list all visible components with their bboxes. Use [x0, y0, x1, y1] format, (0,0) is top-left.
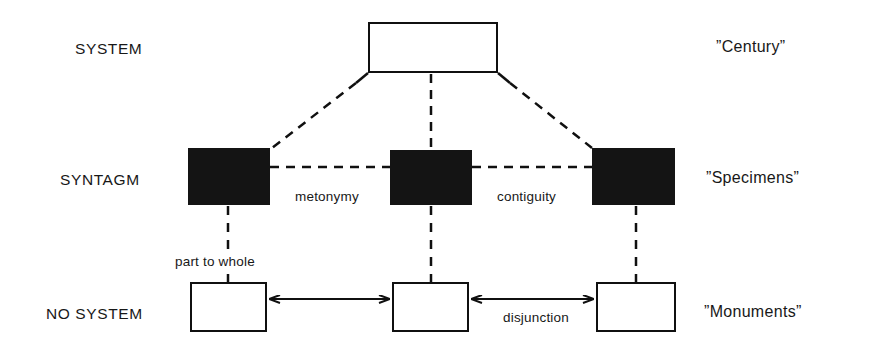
syntagm-node-middle[interactable] [390, 150, 472, 205]
edge-system-to-syntagm-right [510, 83, 592, 148]
syntagm-node-right[interactable] [592, 148, 675, 205]
no-system-node-left[interactable] [190, 282, 267, 332]
edge-label-metonymy: metonymy [295, 190, 359, 204]
no-system-node-right[interactable] [596, 282, 676, 332]
tier-label-no-system: NO SYSTEM [46, 306, 143, 322]
gloss-label-century: Century [716, 39, 785, 55]
edge-label-disjunction: disjunction [503, 311, 569, 325]
gloss-label-specimens: Specimens [706, 170, 799, 186]
system-node[interactable] [368, 22, 498, 73]
syntagm-node-left[interactable] [188, 148, 270, 205]
edge-system-to-syntagm-left [272, 83, 356, 148]
gloss-label-monuments: Monuments [704, 304, 802, 320]
no-system-node-middle[interactable] [392, 282, 469, 332]
edge-label-contiguity: contiguity [497, 190, 556, 204]
system-shoulder-lines [356, 73, 510, 83]
tier-label-system: SYSTEM [75, 41, 142, 57]
edge-label-part-to-whole: part to whole [175, 254, 255, 270]
diagram-canvas: SYSTEM SYNTAGM NO SYSTEM Century Specime… [0, 0, 880, 355]
tier-label-syntagm: SYNTAGM [60, 172, 140, 188]
